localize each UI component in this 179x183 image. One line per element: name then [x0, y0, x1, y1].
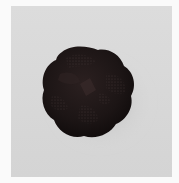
photo: dark knotted lobed object photographed o… [0, 0, 179, 183]
photo-canvas [0, 0, 179, 183]
